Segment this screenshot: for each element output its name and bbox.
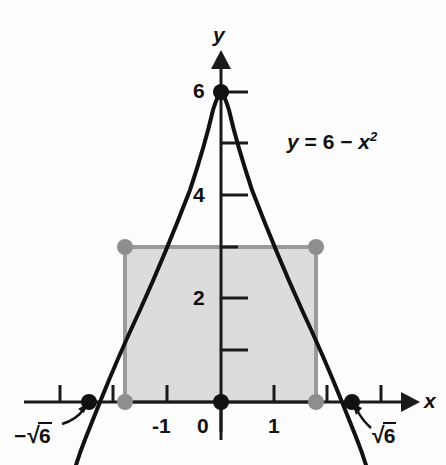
marker-rect-top-left [117, 239, 133, 255]
y-tick-label-6: 6 [193, 80, 205, 101]
x-tick-label--1: -1 [152, 415, 171, 436]
right-root-label: √6 [371, 424, 396, 447]
x-axis-arrowhead [401, 392, 420, 412]
right-root-leader-line [357, 410, 371, 428]
parabola-rectangle-figure: 6 4 2 -1 0 1 y x y = 6 − x2 −√6 √6 [0, 0, 446, 465]
marker-rect-top-right [308, 239, 324, 255]
marker-rect-bottom-left [117, 394, 133, 410]
y-axis-arrowhead [211, 50, 231, 69]
plot-canvas [0, 0, 446, 465]
y-tick-label-4: 4 [193, 184, 205, 205]
equation-exponent: 2 [370, 129, 377, 144]
y-tick-label-2: 2 [193, 287, 205, 308]
marker-origin [213, 394, 229, 410]
equation-lhs: y [287, 130, 299, 153]
left-root-radical-group: √6 [26, 424, 51, 447]
x-tick-label-0: 0 [197, 415, 209, 436]
x-tick-label-1: 1 [268, 415, 280, 436]
left-root-minus-sign: − [14, 424, 26, 447]
equation-label: y = 6 − x2 [287, 131, 377, 152]
left-root-radicand: 6 [38, 422, 52, 447]
marker-rect-bottom-right [308, 394, 324, 410]
equation-equals: = [305, 130, 317, 153]
y-axis-label: y [213, 24, 225, 45]
equation-constant: 6 [323, 130, 335, 153]
marker-vertex [213, 84, 229, 100]
left-root-label: −√6 [14, 424, 52, 447]
left-root-leader-line [62, 409, 84, 424]
right-root-radicand: 6 [383, 422, 397, 447]
equation-minus-sign: − [340, 130, 352, 153]
right-root-radical-group: √6 [371, 424, 396, 447]
equation-variable: x [358, 130, 370, 153]
x-axis-label: x [424, 390, 436, 411]
